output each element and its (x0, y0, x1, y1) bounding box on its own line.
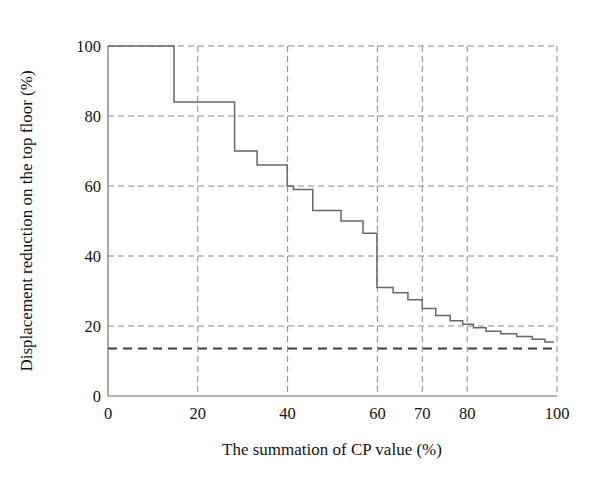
y-tick-label-80: 80 (85, 107, 102, 126)
y-tick-label-20: 20 (85, 317, 102, 336)
x-tick-label-80: 80 (459, 404, 476, 423)
chart-svg: 100 80 60 40 20 0 0 20 40 60 70 80 100 T… (0, 0, 615, 485)
x-tick-label-70: 70 (414, 404, 431, 423)
x-tick-label-20: 20 (190, 404, 207, 423)
x-tick-label-60: 60 (369, 404, 386, 423)
x-axis-title: The summation of CP value (%) (222, 440, 442, 459)
y-tick-label-40: 40 (85, 247, 102, 266)
x-tick-label-0: 0 (104, 404, 112, 423)
y-axis-title: Displacement reduction on the top floor … (17, 70, 36, 371)
chart-background (0, 0, 615, 485)
x-tick-label-40: 40 (279, 404, 296, 423)
chart-figure: 100 80 60 40 20 0 0 20 40 60 70 80 100 T… (0, 0, 615, 485)
y-tick-label-60: 60 (85, 177, 102, 196)
x-tick-label-100: 100 (545, 404, 570, 423)
y-tick-label-100: 100 (76, 37, 101, 56)
y-tick-label-0: 0 (93, 387, 101, 406)
